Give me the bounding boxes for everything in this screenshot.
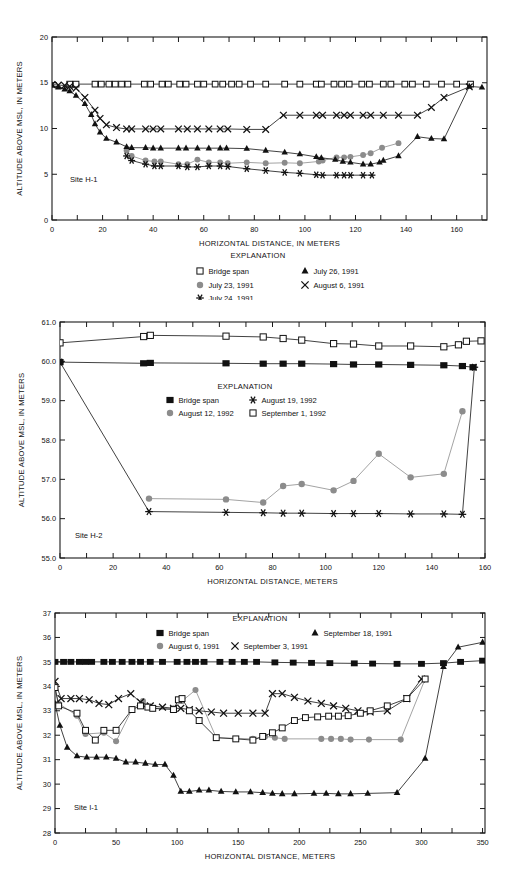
x-axis-title: HORIZONTAL DISTANCE, IN METERS — [199, 239, 340, 248]
legend-item-label: July 26, 1991 — [314, 267, 359, 276]
legend-item[interactable]: Bridge span — [166, 396, 219, 405]
marker-filled-square — [216, 659, 223, 665]
marker-filled-triangle — [206, 145, 212, 151]
marker-filled-square — [184, 659, 191, 665]
legend-item-label: Bridge span — [169, 629, 210, 638]
marker-filled-triangle — [183, 145, 189, 151]
legend-item[interactable]: Bridge span — [156, 629, 209, 638]
legend-item[interactable]: September 18, 1991 — [312, 629, 393, 638]
marker-filled-square — [222, 360, 229, 366]
legend-item[interactable]: July 26, 1991 — [302, 267, 359, 276]
legend: EXPLANATIONBridge spanJuly 26, 1991July … — [196, 251, 364, 300]
marker-filled-triangle — [142, 760, 149, 766]
marker-filled-circle — [167, 410, 173, 416]
legend-item[interactable]: August 6, 1991 — [301, 281, 364, 290]
marker-filled-circle — [143, 158, 149, 164]
marker-open-square — [196, 718, 202, 724]
legend-item[interactable]: August 6, 1991 — [157, 642, 220, 651]
marker-open-square — [183, 81, 189, 87]
marker-filled-square — [440, 362, 447, 368]
site-label: Site I-1 — [74, 803, 98, 812]
marker-filled-square — [52, 659, 59, 665]
legend-item[interactable]: September 3, 1991 — [231, 642, 308, 651]
marker-open-square — [56, 703, 62, 709]
marker-filled-triangle — [194, 145, 200, 151]
marker-open-square — [359, 81, 365, 87]
y-tick-label: 32 — [43, 731, 51, 740]
marker-filled-triangle — [82, 100, 88, 106]
marker-filled-circle — [459, 408, 465, 414]
legend-item[interactable]: Bridge span — [197, 267, 249, 276]
marker-filled-triangle — [232, 788, 239, 794]
marker-filled-triangle — [311, 790, 318, 796]
x-tick-label: 100 — [171, 838, 183, 847]
marker-filled-circle — [192, 687, 198, 693]
marker-filled-circle — [244, 159, 250, 165]
chart-svg-site-h1: 02040608010012014016005101520HORIZONTAL … — [0, 0, 516, 300]
marker-filled-triangle — [103, 753, 110, 759]
marker-filled-circle — [297, 160, 303, 166]
marker-open-square — [279, 725, 285, 731]
marker-open-square — [441, 344, 447, 350]
marker-filled-square — [418, 661, 425, 667]
marker-filled-square — [326, 660, 333, 666]
y-tick-label: 37 — [43, 609, 51, 618]
marker-filled-triangle — [177, 788, 184, 794]
marker-filled-circle — [280, 483, 286, 489]
x-tick-label: 80 — [250, 225, 258, 234]
legend-title: EXPLANATION — [231, 251, 286, 260]
y-tick-label: 29 — [43, 804, 51, 813]
x-tick-label: 300 — [415, 838, 427, 847]
legend-item[interactable]: August 19, 1992 — [249, 396, 317, 405]
marker-open-square — [165, 81, 171, 87]
marker-open-square — [454, 81, 460, 87]
marker-filled-square — [260, 361, 267, 367]
x-tick-label: 40 — [162, 563, 170, 572]
marker-filled-circle — [194, 157, 200, 163]
x-tick-label: 140 — [426, 563, 438, 572]
marker-filled-triangle — [97, 129, 103, 135]
chart-svg-site-i1: 0501001502002503003502829303132333435363… — [0, 595, 516, 891]
marker-filled-square — [241, 659, 248, 665]
marker-open-square — [367, 81, 373, 87]
chart-panel-site-h2: 02040608010012014016055.056.057.058.059.… — [0, 300, 516, 595]
marker-filled-square — [298, 361, 305, 367]
marker-filled-square — [308, 660, 315, 666]
marker-open-square — [101, 727, 107, 733]
x-tick-label: 350 — [476, 838, 488, 847]
marker-filled-triangle — [244, 145, 250, 151]
legend-item-label: September 18, 1991 — [324, 629, 393, 638]
marker-filled-square — [351, 660, 358, 666]
marker-open-square — [83, 727, 89, 733]
marker-filled-circle — [318, 736, 324, 742]
series-bridge-span — [52, 658, 486, 667]
marker-filled-circle — [376, 451, 382, 457]
marker-filled-circle — [299, 481, 305, 487]
x-tick-label: 0 — [58, 563, 62, 572]
chart-panel-site-i1: 0501001502002503003502829303132333435363… — [0, 595, 516, 891]
marker-filled-circle — [348, 737, 354, 743]
legend-item[interactable]: September 1, 1992 — [250, 409, 326, 418]
marker-open-square — [186, 708, 192, 714]
marker-open-square — [141, 333, 147, 339]
marker-filled-square — [192, 659, 199, 665]
legend-item-label: Bridge span — [179, 396, 220, 405]
marker-filled-triangle — [302, 267, 309, 273]
x-axis-title: HORIZONTAL DISTANCE, METERS — [205, 852, 336, 861]
marker-open-square — [315, 714, 321, 720]
site-label: Site H-1 — [70, 175, 97, 184]
legend-item[interactable]: July 23, 1991 — [197, 281, 254, 290]
marker-open-square — [346, 81, 352, 87]
marker-open-square — [98, 81, 104, 87]
x-tick-label: 100 — [319, 563, 331, 572]
legend-item[interactable]: August 12, 1992 — [167, 409, 234, 418]
marker-filled-triangle — [479, 84, 485, 90]
marker-open-square — [439, 81, 445, 87]
x-tick-label: 140 — [400, 225, 412, 234]
y-axis-title: ALTITUDE ABOVE MSL, IN METERS — [15, 656, 24, 791]
marker-open-square — [408, 343, 414, 349]
marker-filled-square — [100, 659, 107, 665]
marker-filled-triangle — [57, 722, 64, 728]
marker-open-square — [280, 335, 286, 341]
marker-open-square — [339, 81, 345, 87]
